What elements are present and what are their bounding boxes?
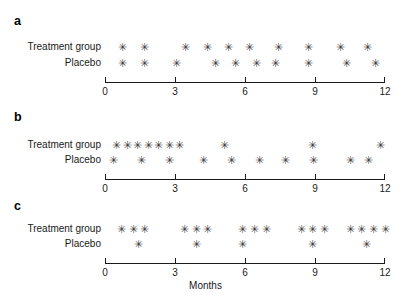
asterisk-marker: ✳ — [369, 222, 378, 236]
asterisk-marker: ✳ — [140, 56, 149, 70]
asterisk-marker: ✳ — [362, 237, 371, 251]
asterisk-marker: ✳ — [271, 56, 280, 70]
asterisk-marker: ✳ — [336, 40, 345, 54]
panel-c-treatment-row: Treatment group ✳✳✳✳✳✳✳✳✳✳✳✳✳✳✳✳ — [0, 222, 411, 236]
panel-a-treatment-markers: ✳✳✳✳✳✳✳✳✳✳ — [105, 40, 385, 54]
panel-b-treatment-markers: ✳✳✳✳✳✳✳✳✳✳ — [105, 138, 385, 152]
asterisk-marker: ✳ — [181, 40, 190, 54]
asterisk-marker: ✳ — [250, 222, 259, 236]
asterisk-marker: ✳ — [172, 56, 181, 70]
asterisk-marker: ✳ — [245, 40, 254, 54]
axis-tick-label: 9 — [312, 86, 318, 98]
axis-tick — [245, 77, 246, 82]
asterisk-marker: ✳ — [346, 222, 355, 236]
asterisk-marker: ✳ — [117, 222, 126, 236]
axis-tick-label: 12 — [379, 86, 390, 98]
axis-tick — [105, 258, 106, 263]
asterisk-marker: ✳ — [211, 56, 220, 70]
asterisk-marker: ✳ — [192, 237, 201, 251]
asterisk-marker: ✳ — [154, 138, 163, 152]
panel-c-axis: 036912 — [105, 263, 385, 264]
asterisk-marker: ✳ — [140, 222, 149, 236]
asterisk-marker: ✳ — [304, 40, 313, 54]
asterisk-marker: ✳ — [255, 153, 264, 167]
asterisk-marker: ✳ — [192, 222, 201, 236]
axis-tick — [315, 77, 316, 82]
asterisk-marker: ✳ — [227, 153, 236, 167]
panel-c-placebo-markers: ✳✳✳✳✳ — [105, 237, 385, 251]
asterisk-marker: ✳ — [203, 222, 212, 236]
asterisk-marker: ✳ — [342, 56, 351, 70]
asterisk-marker: ✳ — [133, 138, 142, 152]
asterisk-marker: ✳ — [281, 153, 290, 167]
asterisk-marker: ✳ — [140, 40, 149, 54]
panel-b-placebo-markers: ✳✳✳✳✳✳✳✳✳✳ — [105, 153, 385, 167]
asterisk-marker: ✳ — [381, 222, 390, 236]
asterisk-marker: ✳ — [165, 138, 174, 152]
asterisk-marker: ✳ — [129, 222, 138, 236]
panel-b-placebo-label: Placebo — [0, 153, 101, 167]
asterisk-marker: ✳ — [308, 222, 317, 236]
asterisk-marker: ✳ — [203, 40, 212, 54]
axis-tick-label: 3 — [172, 86, 178, 98]
axis-tick-label: 9 — [312, 267, 318, 279]
panel-a-placebo-row: Placebo ✳✳✳✳✳✳✳✳✳✳ — [0, 56, 411, 70]
asterisk-marker: ✳ — [175, 138, 184, 152]
panel-b-axis: 036912 — [105, 179, 385, 180]
axis-tick-label: 3 — [172, 267, 178, 279]
asterisk-marker: ✳ — [364, 153, 373, 167]
asterisk-marker: ✳ — [371, 56, 380, 70]
asterisk-marker: ✳ — [118, 40, 127, 54]
asterisk-marker: ✳ — [165, 153, 174, 167]
asterisk-marker: ✳ — [308, 138, 317, 152]
asterisk-marker: ✳ — [252, 56, 261, 70]
panel-a-treatment-label: Treatment group — [0, 40, 101, 54]
asterisk-marker: ✳ — [346, 153, 355, 167]
asterisk-marker: ✳ — [199, 153, 208, 167]
axis-tick-label: 6 — [242, 86, 248, 98]
panel-c: c Treatment group ✳✳✳✳✳✳✳✳✳✳✳✳✳✳✳✳ Place… — [0, 185, 411, 300]
axis-tick-label: 0 — [102, 267, 108, 279]
asterisk-marker: ✳ — [376, 138, 385, 152]
asterisk-marker: ✳ — [224, 40, 233, 54]
axis-tick — [175, 77, 176, 82]
asterisk-marker: ✳ — [274, 40, 283, 54]
panel-a-letter: a — [14, 14, 21, 28]
axis-tick — [315, 258, 316, 263]
panel-a-treatment-row: Treatment group ✳✳✳✳✳✳✳✳✳✳ — [0, 40, 411, 54]
axis-tick — [315, 174, 316, 179]
asterisk-marker: ✳ — [262, 222, 271, 236]
asterisk-marker: ✳ — [297, 222, 306, 236]
asterisk-marker: ✳ — [363, 40, 372, 54]
panel-b-treatment-label: Treatment group — [0, 138, 101, 152]
asterisk-marker: ✳ — [309, 153, 318, 167]
panel-a-placebo-label: Placebo — [0, 56, 101, 70]
axis-tick — [175, 174, 176, 179]
asterisk-marker: ✳ — [220, 138, 229, 152]
asterisk-marker: ✳ — [180, 222, 189, 236]
asterisk-marker: ✳ — [123, 138, 132, 152]
axis-tick-label: 12 — [379, 267, 390, 279]
axis-tick — [245, 258, 246, 263]
asterisk-marker: ✳ — [137, 153, 146, 167]
axis-tick — [384, 258, 385, 263]
panel-b-letter: b — [14, 110, 22, 124]
asterisk-marker: ✳ — [109, 153, 118, 167]
axis-tick — [384, 174, 385, 179]
panel-b-placebo-row: Placebo ✳✳✳✳✳✳✳✳✳✳ — [0, 153, 411, 167]
axis-tick-label: 0 — [102, 86, 108, 98]
asterisk-marker: ✳ — [134, 237, 143, 251]
panel-c-treatment-label: Treatment group — [0, 222, 101, 236]
panel-a-placebo-markers: ✳✳✳✳✳✳✳✳✳✳ — [105, 56, 385, 70]
panel-c-placebo-label: Placebo — [0, 237, 101, 251]
figure-container: a Treatment group ✳✳✳✳✳✳✳✳✳✳ Placebo ✳✳✳… — [0, 0, 411, 300]
asterisk-marker: ✳ — [304, 56, 313, 70]
asterisk-marker: ✳ — [144, 138, 153, 152]
axis-tick — [105, 77, 106, 82]
panel-a-axis: 036912 — [105, 82, 385, 83]
axis-tick — [175, 258, 176, 263]
asterisk-marker: ✳ — [118, 56, 127, 70]
asterisk-marker: ✳ — [112, 138, 121, 152]
axis-tick-label: 6 — [242, 267, 248, 279]
asterisk-marker: ✳ — [308, 237, 317, 251]
